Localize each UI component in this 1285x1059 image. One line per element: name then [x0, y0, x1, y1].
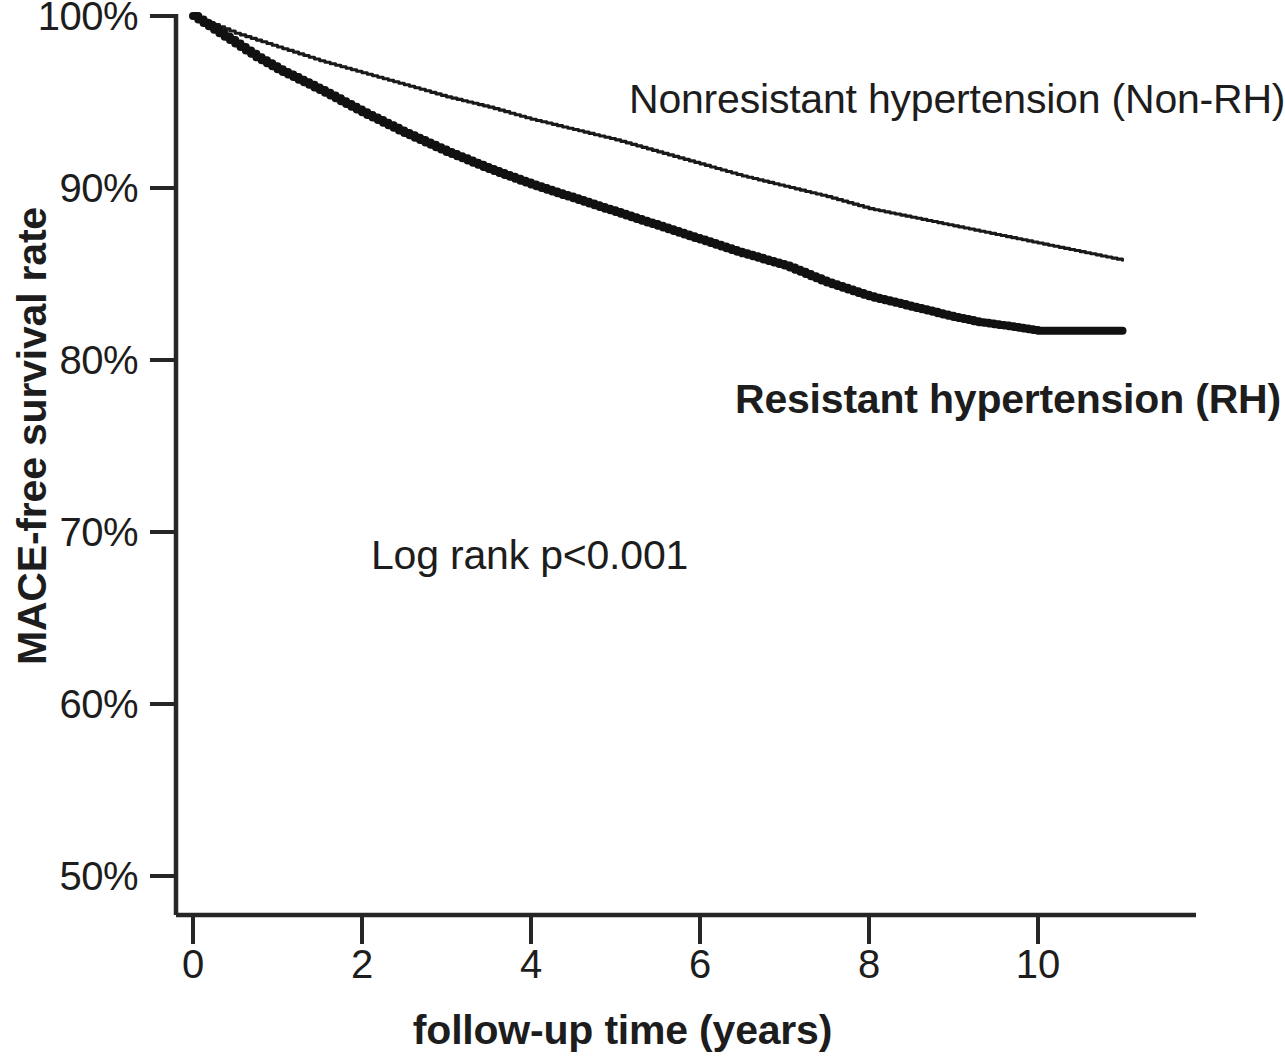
x-axis-title: follow-up time (years) [0, 1010, 1245, 1051]
y-tick-label-100: 100% [28, 0, 138, 36]
series-label-nonresistant-hypertension: Nonresistant hypertension (Non-RH) [629, 79, 1285, 120]
x-tick-label-6: 6 [660, 944, 740, 984]
y-axis-title: MACE-free survival rate [12, 207, 53, 665]
log-rank-annotation: Log rank p<0.001 [371, 535, 688, 576]
x-tick-label-8: 8 [829, 944, 909, 984]
x-tick-label-2: 2 [322, 944, 402, 984]
y-tick-label-90: 90% [28, 168, 138, 208]
y-tick-label-50: 50% [28, 856, 138, 896]
x-tick-label-10: 10 [998, 944, 1078, 984]
y-tick-label-60: 60% [28, 684, 138, 724]
y-axis-ticks [150, 16, 176, 876]
series-label-resistant-hypertension: Resistant hypertension (RH) [735, 379, 1281, 420]
x-axis-ticks [193, 915, 1038, 944]
x-tick-label-4: 4 [491, 944, 571, 984]
x-tick-label-0: 0 [153, 944, 233, 984]
